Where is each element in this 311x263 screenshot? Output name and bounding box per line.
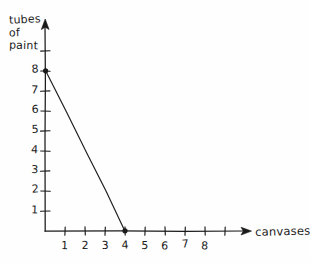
x-tick-label-1: 1 [58,240,72,252]
y-tick-label-7: 7 [27,84,42,96]
x-tick-label-6: 6 [157,240,172,252]
y-axis-title-line-3: paint [9,38,41,52]
x-tick-label-5: 5 [138,240,152,252]
x-tick-label-2: 2 [78,240,92,252]
y-tick-label-1: 1 [27,204,41,216]
y-tick-label-8: 8 [28,63,43,75]
y-tick-label-3: 3 [28,164,42,176]
y-tick-label-4: 4 [28,144,42,156]
y-axis-title-line-2: of [9,26,41,40]
data-point-x-intercept [122,228,127,233]
x-tick-label-8: 8 [197,240,211,252]
y-axis-title: tubes of paint [9,13,41,52]
chart-canvas: tubes of paint canvases 8 7 6 5 4 3 2 1 … [0,0,311,263]
x-axis-title: canvases [255,225,310,239]
data-point-y-intercept [43,68,48,73]
y-tick-label-6: 6 [28,104,42,116]
y-axis-title-line-1: tubes [9,12,41,27]
x-tick-label-3: 3 [98,240,112,252]
x-tick-label-4: 4 [118,239,133,251]
line-chart-plot [0,0,311,263]
paper-background [0,0,311,263]
x-tick-label-7: 7 [178,238,193,250]
y-tick-label-5: 5 [28,124,42,136]
y-tick-label-2: 2 [28,183,43,195]
